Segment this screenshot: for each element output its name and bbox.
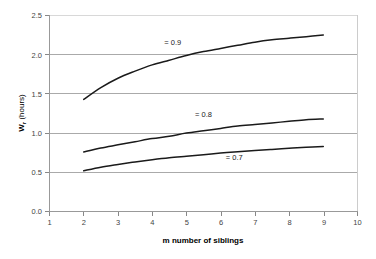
x-tick-label: 8 [288, 218, 292, 227]
y-tick-labels: 2.5 2.0 1.5 1.0 0.5 0.0 [32, 11, 42, 216]
svg-text:Wr (hours): Wr (hours) [17, 94, 27, 132]
series-annotation-label: = 0.7 [226, 153, 243, 162]
x-tick-label: 2 [82, 218, 86, 227]
x-tick-label: 4 [150, 218, 154, 227]
line-chart: 2.5 2.0 1.5 1.0 0.5 0.0 1 2 3 4 5 6 7 8 … [0, 0, 376, 259]
series-annotation-label: = 0.8 [195, 110, 212, 119]
x-tick-labels: 1 2 3 4 5 6 7 8 9 10 [47, 218, 361, 227]
x-tick-label: 7 [253, 218, 257, 227]
x-tick-label: 3 [116, 218, 120, 227]
y-tick-label: 1.0 [32, 129, 42, 138]
chart-container: 2.5 2.0 1.5 1.0 0.5 0.0 1 2 3 4 5 6 7 8 … [0, 0, 376, 259]
x-tick-label: 10 [353, 218, 361, 227]
y-axis-title: Wr (hours) [17, 94, 27, 132]
x-tick-label: 9 [322, 218, 326, 227]
y-tick-label: 0.0 [32, 207, 42, 216]
y-tick-label: 1.5 [32, 90, 42, 99]
y-tick-label: 0.5 [32, 168, 42, 177]
series-annotation-label: = 0.9 [164, 38, 181, 47]
y-axis-title-units: (hours) [17, 94, 26, 122]
y-tick-label: 2.0 [32, 51, 42, 60]
x-tick-label: 6 [219, 218, 223, 227]
y-tick-label: 2.5 [32, 11, 42, 20]
x-axis-title: m number of siblings [163, 236, 244, 245]
y-tick-marks [45, 16, 49, 212]
x-tick-marks [50, 212, 358, 216]
x-tick-label: 1 [47, 218, 51, 227]
x-tick-label: 5 [185, 218, 189, 227]
